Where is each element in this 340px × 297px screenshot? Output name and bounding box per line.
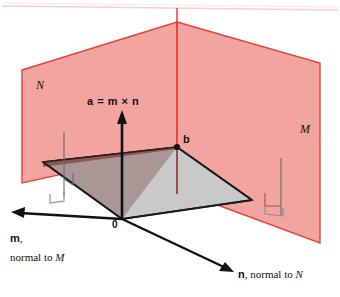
plane-m-label: M [300,123,310,135]
m-plane-ref: M [55,251,64,263]
m-vector-label: m [10,232,20,244]
cross-product-label: a = m × n [87,96,139,107]
plane-n-label: N [36,79,44,91]
origin-label: 0 [112,220,118,230]
n-plane-ref: N [295,268,302,280]
m-comma: , [20,232,23,244]
n-description: normal to [247,268,295,280]
m-axis-caption: m, normal to M [10,229,64,264]
point-b-label: b [183,134,190,145]
point-b-marker [174,144,180,150]
n-vector-label: n [238,268,245,280]
n-axis-caption: n, normal to N [238,265,303,281]
figure-root: N M a = m × n b 0 m, normal to M n, norm… [0,0,340,297]
m-description: normal to [10,251,55,263]
